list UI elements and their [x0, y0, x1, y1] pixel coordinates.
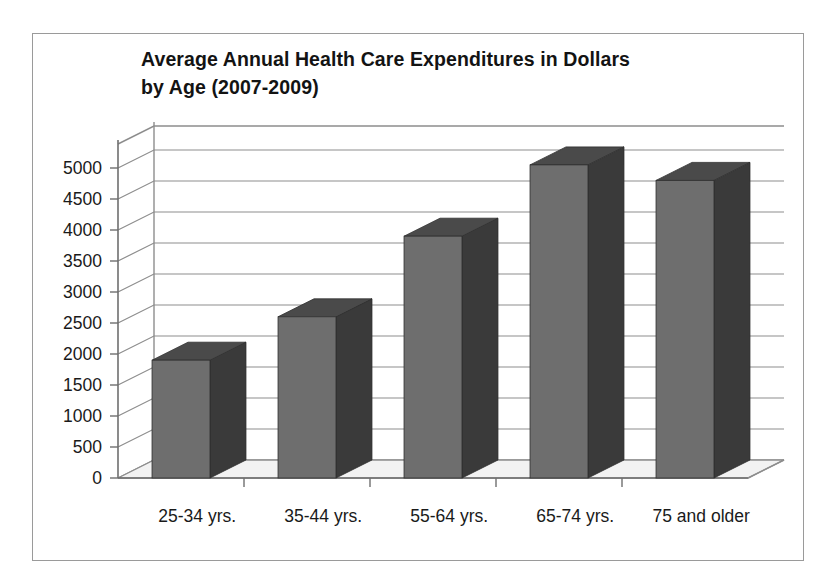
y-axis-tick-label: 3500 — [63, 251, 102, 271]
y-axis-tick-label: 1500 — [63, 375, 102, 395]
bar-column — [656, 162, 750, 478]
bar-chart-plot: 0500100015002000250030003500400045005000… — [33, 34, 805, 562]
bars-group — [152, 147, 750, 478]
y-axis-tick-label: 1000 — [63, 406, 102, 426]
y-axis-tick-label: 0 — [92, 468, 102, 488]
y-axis-tick-label: 4000 — [63, 220, 102, 240]
bar-side-face — [210, 342, 246, 478]
x-axis-labels-group: 25-34 yrs.35-44 yrs.55-64 yrs.65-74 yrs.… — [158, 506, 750, 526]
x-axis-category-label: 75 and older — [653, 506, 750, 526]
y-axis-tick-label: 3000 — [63, 282, 102, 302]
bar-side-face — [336, 299, 372, 478]
x-axis-category-label: 35-44 yrs. — [284, 506, 362, 526]
bar-front-face — [278, 317, 336, 478]
bar-column — [530, 147, 624, 478]
bar-column — [152, 342, 246, 478]
bar-front-face — [404, 236, 462, 478]
bar-front-face — [656, 180, 714, 478]
bar-front-face — [530, 165, 588, 478]
y-axis-labels-group: 0500100015002000250030003500400045005000 — [63, 158, 102, 488]
y-axis-tick-label: 500 — [73, 437, 102, 457]
x-axis-category-label: 25-34 yrs. — [158, 506, 236, 526]
chart-frame: Average Annual Health Care Expenditures … — [32, 33, 804, 561]
bar-side-face — [462, 218, 498, 478]
gridline — [118, 150, 784, 168]
bar-side-face — [588, 147, 624, 478]
bar-front-face — [152, 360, 210, 478]
chart-ceiling-edge — [118, 126, 784, 144]
x-axis-category-label: 65-74 yrs. — [536, 506, 614, 526]
y-axis-tick-label: 5000 — [63, 158, 102, 178]
x-axis-category-label: 55-64 yrs. — [410, 506, 488, 526]
bar-column — [404, 218, 498, 478]
y-axis-tick-label: 4500 — [63, 189, 102, 209]
y-axis-tick-label: 2500 — [63, 313, 102, 333]
y-axis-tick-label: 2000 — [63, 344, 102, 364]
bar-column — [278, 299, 372, 478]
bar-side-face — [714, 162, 750, 478]
